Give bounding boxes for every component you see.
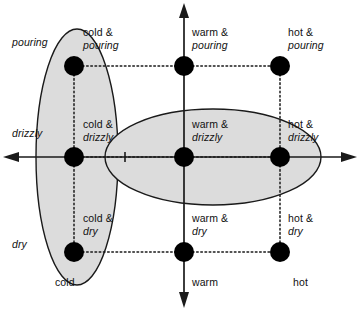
label-node-cold-pouring: cold & pouring <box>83 26 119 51</box>
label-node-hot-dry-line2: dry <box>288 225 313 238</box>
label-node-cold-drizzly: cold & drizzly <box>83 118 113 143</box>
node-warm-pouring[interactable] <box>174 56 194 76</box>
label-node-cold-dry-line1: cold & <box>83 212 113 225</box>
label-node-warm-pouring-line2: pouring <box>192 39 228 52</box>
node-hot-pouring[interactable] <box>270 56 290 76</box>
label-axis-hot: hot <box>293 276 308 289</box>
label-node-cold-drizzly-line2: drizzly <box>83 131 113 144</box>
label-node-hot-pouring-line1: hot & <box>288 26 324 39</box>
label-node-cold-dry: cold & dry <box>83 212 113 237</box>
label-node-cold-pouring-line2: pouring <box>83 39 119 52</box>
node-cold-pouring[interactable] <box>64 56 84 76</box>
label-node-warm-drizzly-line1: warm & <box>192 118 228 131</box>
label-node-hot-drizzly: hot & drizzly <box>288 118 318 143</box>
label-axis-warm: warm <box>192 276 218 289</box>
horizontal-axis-left-arrowhead <box>3 152 19 162</box>
label-node-hot-drizzly-line1: hot & <box>288 118 318 131</box>
label-node-warm-dry: warm & dry <box>192 212 228 237</box>
label-node-warm-drizzly: warm & drizzly <box>192 118 228 143</box>
label-node-hot-dry: hot & dry <box>288 212 313 237</box>
node-cold-drizzly[interactable] <box>64 147 84 167</box>
label-node-hot-dry-line1: hot & <box>288 212 313 225</box>
label-node-warm-pouring: warm & pouring <box>192 26 228 51</box>
vertical-axis-top-arrowhead <box>179 3 189 18</box>
node-warm-dry[interactable] <box>174 242 194 262</box>
horizontal-axis-right-arrowhead <box>341 152 357 162</box>
node-hot-drizzly[interactable] <box>270 147 290 167</box>
node-warm-drizzly[interactable] <box>174 147 194 167</box>
label-axis-pouring: pouring <box>12 36 48 49</box>
label-node-hot-pouring: hot & pouring <box>288 26 324 51</box>
label-node-hot-drizzly-line2: drizzly <box>288 131 318 144</box>
label-node-warm-drizzly-line2: drizzly <box>192 131 228 144</box>
label-node-cold-drizzly-line1: cold & <box>83 118 113 131</box>
label-node-warm-dry-line2: dry <box>192 225 228 238</box>
weather-lattice-diagram: cold & pouring warm & pouring hot & pour… <box>0 0 362 317</box>
vertical-axis-bottom-arrowhead <box>179 292 189 308</box>
label-node-hot-pouring-line2: pouring <box>288 39 324 52</box>
label-node-cold-pouring-line1: cold & <box>83 26 119 39</box>
node-cold-dry[interactable] <box>64 242 84 262</box>
label-node-cold-dry-line2: dry <box>83 225 113 238</box>
label-axis-cold: cold <box>55 276 75 289</box>
label-axis-dry: dry <box>12 238 27 251</box>
label-axis-drizzly: drizzly <box>12 127 42 140</box>
label-node-warm-pouring-line1: warm & <box>192 26 228 39</box>
node-hot-dry[interactable] <box>270 242 290 262</box>
label-node-warm-dry-line1: warm & <box>192 212 228 225</box>
